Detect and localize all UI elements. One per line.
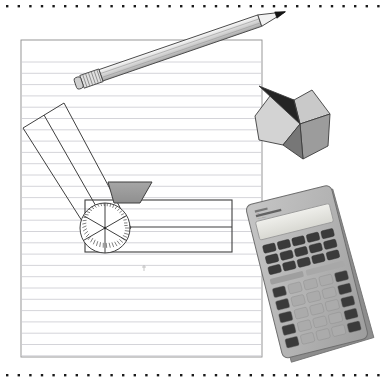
spoked-wheel-circle [80,203,130,253]
illustration-canvas: CASIO Scientific Calculator [0,0,382,383]
school-supplies-illustration: CASIO Scientific Calculator [0,0,382,383]
